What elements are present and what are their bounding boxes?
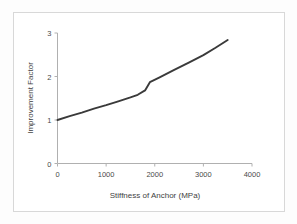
x-axis-tick-labels: 01000200030004000 <box>55 170 260 179</box>
y-axis-title: Improvement Factor <box>26 62 35 134</box>
y-tick-label: 0 <box>47 160 51 169</box>
x-tick-label: 2000 <box>146 170 163 179</box>
x-tick-label: 3000 <box>195 170 212 179</box>
x-tick-label: 0 <box>55 170 59 179</box>
axes-group <box>58 33 253 164</box>
x-axis-title: Stiffness of Anchor (MPa) <box>110 191 201 200</box>
y-tick-label: 1 <box>47 116 51 125</box>
y-tick-label: 3 <box>47 29 51 38</box>
x-tick-label: 4000 <box>244 170 261 179</box>
y-axis-tick-labels: 0123 <box>47 29 51 169</box>
data-series-improvement-factor <box>58 40 228 120</box>
line-chart: 0123 01000200030004000 Stiffness of Anch… <box>0 0 297 224</box>
y-tick-label: 2 <box>47 73 51 82</box>
x-tick-label: 1000 <box>98 170 115 179</box>
